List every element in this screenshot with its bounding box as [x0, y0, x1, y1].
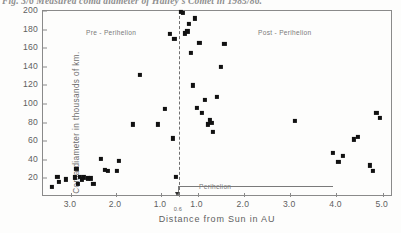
y-axis-tick	[43, 48, 47, 49]
data-point-marker	[378, 116, 382, 120]
data-point-marker	[215, 94, 219, 98]
data-point-marker	[106, 169, 110, 173]
data-point-marker	[341, 154, 345, 158]
data-point-marker	[200, 111, 204, 115]
x-axis-tick	[244, 193, 245, 197]
data-point-marker	[181, 11, 185, 15]
data-point-marker	[172, 37, 176, 41]
data-point-marker	[368, 163, 372, 167]
data-point-marker	[171, 136, 175, 140]
y-axis-tick-label: 160	[12, 42, 38, 52]
data-point-marker	[168, 32, 172, 36]
y-axis-tick	[43, 29, 47, 30]
x-axis-tick-label: 3.0	[57, 199, 83, 209]
data-point-marker	[138, 73, 142, 77]
y-axis-tick-label: 140	[12, 61, 38, 71]
data-point-marker	[89, 176, 93, 180]
data-point-marker	[76, 182, 80, 186]
y-axis-tick	[43, 66, 47, 67]
data-point-marker	[331, 151, 335, 155]
data-point-marker	[99, 157, 103, 161]
perihelion-leader-line	[178, 186, 333, 187]
data-point-marker	[191, 83, 195, 87]
data-point-marker	[371, 169, 375, 173]
data-point-marker	[115, 169, 119, 173]
data-point-marker	[72, 175, 76, 179]
x-axis-tick	[161, 193, 162, 197]
y-axis-tick	[43, 104, 47, 105]
figure-caption: Fig. 3/6 Measured coma diameter of Halle…	[2, 0, 401, 8]
y-axis-tick-label: 120	[12, 79, 38, 89]
data-point-marker	[174, 174, 178, 178]
y-axis-tick	[43, 159, 47, 160]
data-point-marker	[356, 134, 360, 138]
x-axis-tick	[290, 193, 291, 197]
x-axis-tick-label: 4.0	[322, 199, 348, 209]
data-point-marker	[193, 16, 197, 20]
annotation-post-perihelion: Post - Perihelion	[258, 29, 311, 36]
data-point-marker	[211, 130, 215, 134]
data-point-marker	[336, 160, 340, 164]
y-axis-tick	[43, 11, 47, 12]
y-axis-tick	[43, 85, 47, 86]
perihelion-arrow-icon	[175, 192, 179, 196]
data-point-marker	[374, 111, 378, 115]
y-axis-tick-label: 180	[12, 24, 38, 34]
y-axis-tick-label: 100	[12, 98, 38, 108]
data-point-marker	[293, 119, 297, 123]
y-axis-tick-label: 200	[12, 5, 38, 15]
data-point-marker	[222, 41, 226, 45]
annotation-pre-perihelion: Pre - Perihelion	[86, 29, 136, 36]
data-point-marker	[63, 177, 67, 181]
y-axis-tick	[43, 122, 47, 123]
x-axis-tick-label: 1.0	[184, 199, 210, 209]
y-axis-tick-label: 80	[12, 117, 38, 127]
x-axis-tick	[198, 193, 199, 197]
data-point-marker	[57, 180, 61, 184]
data-point-marker	[197, 41, 201, 45]
x-axis-tick	[336, 193, 337, 197]
data-point-marker	[74, 167, 78, 171]
scatter-plot-area	[42, 10, 392, 196]
x-axis-tick	[383, 193, 384, 197]
y-axis-tick-label: 60	[12, 135, 38, 145]
data-point-marker	[91, 182, 95, 186]
data-point-marker	[195, 106, 199, 110]
data-point-marker	[50, 185, 54, 189]
y-axis-tick	[43, 178, 47, 179]
x-axis-tick-label: 2.0	[230, 199, 256, 209]
x-axis-tick-label: 3.0	[276, 199, 302, 209]
data-point-marker	[117, 159, 121, 163]
data-point-marker	[185, 29, 189, 33]
x-axis-tick-label: 5.0	[369, 199, 395, 209]
y-axis-tick	[43, 141, 47, 142]
data-point-marker	[187, 22, 191, 26]
x-axis-tick	[116, 193, 117, 197]
y-axis-tick-label: 20	[12, 172, 38, 182]
data-point-marker	[162, 107, 166, 111]
data-point-marker	[131, 122, 135, 126]
data-point-marker	[189, 51, 193, 55]
x-axis-tick-label: 2.0	[102, 199, 128, 209]
data-point-marker	[156, 122, 160, 126]
data-point-marker	[219, 65, 223, 69]
x-axis-tick	[71, 193, 72, 197]
x-axis-title: Distance from Sun in AU	[42, 214, 392, 224]
data-point-marker	[203, 98, 207, 102]
y-axis-tick-label: 40	[12, 154, 38, 164]
data-point-marker	[209, 121, 213, 125]
perihelion-dashed-line	[179, 11, 180, 195]
data-point-marker	[55, 174, 59, 178]
